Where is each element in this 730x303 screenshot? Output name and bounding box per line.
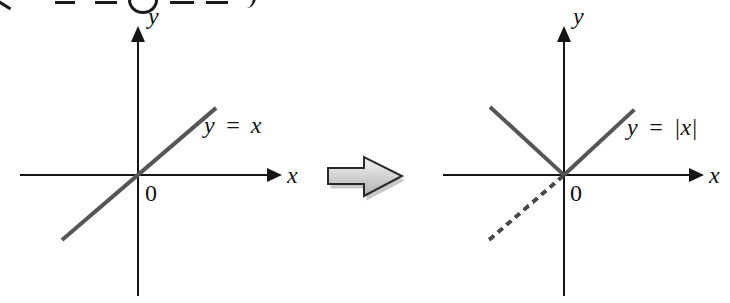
right-origin-label: 0 <box>570 181 582 205</box>
right-y-axis <box>563 38 565 296</box>
left-x-axis-arrowhead-icon <box>267 168 282 182</box>
cropped-text-fragment <box>55 1 75 4</box>
figure-canvas: y x 0 y = x y x 0 y = |x| <box>0 0 730 303</box>
left-y-axis-arrowhead-icon <box>131 26 145 42</box>
cropped-text-fragment <box>243 0 256 8</box>
right-x-axis-arrowhead-icon <box>689 168 704 182</box>
left-y-axis <box>137 38 139 296</box>
left-curve-label: y = x <box>204 113 262 137</box>
right-y-axis-arrowhead-icon <box>557 26 571 42</box>
right-x-axis-label: x <box>709 163 720 187</box>
cropped-text-fragment <box>0 0 11 10</box>
right-curve-label: y = |x| <box>627 115 698 139</box>
cropped-text-fragment <box>95 1 117 4</box>
abs-line-right-branch <box>563 108 636 176</box>
dashed-reflected-branch <box>488 174 565 242</box>
abs-line-left-branch <box>489 106 566 177</box>
cropped-text-fragment <box>206 1 228 4</box>
right-y-axis-label: y <box>573 4 584 28</box>
left-x-axis <box>20 174 270 176</box>
left-origin-label: 0 <box>145 181 157 205</box>
transform-arrow-icon <box>324 153 406 203</box>
cropped-text-fragment <box>170 1 194 4</box>
left-y-axis-label: y <box>148 4 159 28</box>
left-x-axis-label: x <box>287 163 298 187</box>
